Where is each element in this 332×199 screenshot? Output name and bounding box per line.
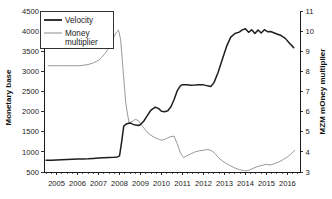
x-axis-tick-label: 2005 (48, 179, 65, 188)
x-axis-tick-label: 2013 (216, 179, 233, 188)
x-axis-tick-label: 2014 (237, 179, 254, 188)
x-axis-tick-label: 2009 (132, 179, 149, 188)
right-axis-title: MZM mOney multiplier (318, 49, 327, 135)
y2-axis-tick-label: 6 (306, 107, 310, 116)
x-axis-tick-label: 2011 (174, 179, 190, 188)
x-axis-tick-label: 2008 (111, 179, 128, 188)
y2-axis-tick-label: 9 (306, 47, 310, 56)
y-axis-tick-label: 4000 (22, 27, 39, 36)
legend-label-money-multiplier-line1: Money (65, 29, 90, 38)
y2-axis-tick-label: 5 (306, 127, 310, 136)
x-axis-tick-label: 2012 (195, 179, 212, 188)
series-line-money-multiplier (48, 30, 295, 171)
legend-label-velocity: Velocity (65, 16, 94, 25)
y2-axis-tick-label: 4 (306, 148, 310, 157)
x-axis-tick-label: 2007 (90, 179, 107, 188)
legend-label-money-multiplier-line2: multiplier (65, 38, 98, 47)
x-axis-tick-label: 2015 (258, 179, 275, 188)
y2-axis-tick-label: 7 (306, 87, 310, 96)
y-axis-tick-label: 1500 (22, 127, 39, 136)
y2-axis-tick-label: 3 (306, 168, 310, 177)
x-axis-tick-label: 2010 (153, 179, 170, 188)
y2-axis-tick-label: 8 (306, 67, 310, 76)
chart-container: 4500400035003000250020001500100050011109… (0, 0, 332, 199)
left-axis-title: Monetary base (4, 69, 13, 126)
y2-axis-tick-label: 11 (306, 7, 314, 16)
y-axis-tick-label: 2000 (22, 107, 39, 116)
y2-axis-tick-label: 10 (306, 27, 314, 36)
x-axis-tick-label: 2006 (69, 179, 86, 188)
y-axis-tick-label: 1000 (22, 148, 39, 157)
y-axis-tick-label: 500 (26, 168, 39, 177)
y-axis-tick-label: 4500 (22, 7, 39, 16)
y-axis-tick-label: 2500 (22, 87, 39, 96)
y-axis-tick-label: 3500 (22, 47, 39, 56)
chart-plot: 4500400035003000250020001500100050011109… (0, 0, 332, 199)
series-line-velocity (46, 29, 294, 161)
x-axis-tick-label: 2016 (279, 179, 296, 188)
y-axis-tick-label: 3000 (22, 67, 39, 76)
